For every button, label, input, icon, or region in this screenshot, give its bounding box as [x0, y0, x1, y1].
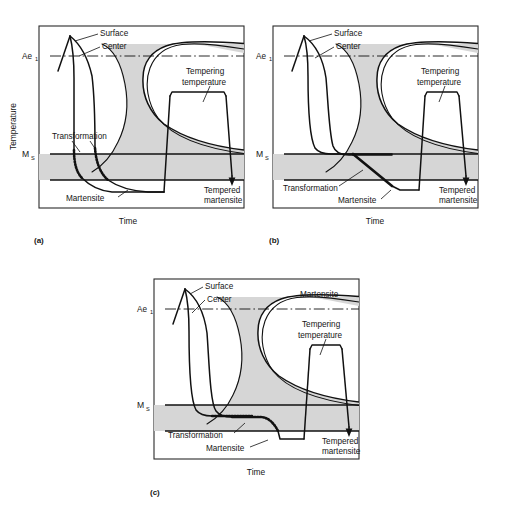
- panel-a-surface-leader: [75, 34, 98, 41]
- panel-a-transformation-band: [92, 44, 244, 180]
- panel-a-ae1-label: Ae: [22, 52, 32, 61]
- panel-a-ae1-sub: 1: [35, 56, 38, 62]
- panel-c-tempering-label-line2: temperature: [298, 331, 343, 340]
- panel-b: Ae 1 M S Surface Center Transformation M…: [253, 0, 505, 252]
- panel-a-transformation-label: Transformation: [52, 132, 107, 141]
- figure-root: Temperature: [0, 0, 505, 505]
- panel-a-tempered-label-line2: martensite: [204, 196, 243, 205]
- panel-a-tempered-label-line1: Tempered: [204, 186, 241, 195]
- panel-b-surface-curve: [304, 36, 353, 154]
- panel-c-center-leader: [192, 300, 205, 313]
- panel-b-ms-label-group: M S: [256, 149, 269, 161]
- panel-c-ms-label: M: [137, 400, 144, 410]
- panel-a-y-axis-label: Temperature: [8, 103, 18, 150]
- panel-c-martensite-top-label: Martensite: [300, 290, 339, 299]
- panel-c: Ae 1 M S Surface Center Martensite Trans…: [128, 255, 380, 505]
- panel-c-ms-label-group: M S: [137, 400, 150, 412]
- panel-a-ms-sub: S: [31, 155, 35, 161]
- panel-c-caption: (c): [150, 488, 160, 497]
- panel-c-martensite-label: Martensite: [206, 444, 245, 453]
- panel-a-caption: (a): [34, 236, 44, 245]
- panel-b-transformation-label: Transformation: [283, 184, 338, 193]
- panel-b-transformation-band: [326, 44, 478, 180]
- panel-a-x-axis-label: Time: [119, 216, 138, 226]
- panel-c-surface-leader: [190, 287, 203, 294]
- panel-c-quench-tail: [278, 431, 304, 439]
- panel-c-ms-sub: S: [146, 406, 150, 412]
- panel-a: Temperature: [0, 0, 252, 252]
- panel-b-ms-sub: S: [265, 155, 269, 161]
- panel-a-ae1-label-group: Ae 1: [22, 52, 38, 62]
- panel-b-tempering-leader: [439, 86, 445, 102]
- panel-a-martensite-leader: [118, 190, 128, 197]
- panel-b-tempering-label-line1: Tempering: [421, 67, 460, 76]
- panel-a-ms-label-group: M S: [22, 149, 35, 161]
- panel-c-tempering-arrowhead: [346, 429, 353, 438]
- panel-b-martensite-leader: [381, 190, 391, 199]
- panel-a-martensite-label: Martensite: [66, 194, 105, 203]
- panel-a-tempering-label-line1: Tempering: [186, 67, 225, 76]
- panel-b-tempering-arrowhead: [463, 178, 470, 187]
- panel-b-ms-label: M: [256, 149, 263, 159]
- panel-a-tempering-arrowhead: [229, 178, 236, 187]
- panel-c-tempering-leader: [320, 339, 326, 355]
- panel-b-ae1-label-group: Ae 1: [256, 52, 272, 62]
- panel-c-ae1-label: Ae: [137, 305, 147, 314]
- panel-b-surface-label: Surface: [334, 29, 363, 38]
- panel-c-austenitize-ramp: [173, 289, 185, 324]
- panel-b-martensite-label: Martensite: [338, 196, 377, 205]
- panel-c-surface-label: Surface: [205, 282, 234, 291]
- panel-a-austenitize-ramp: [58, 36, 70, 71]
- panel-c-martensite-leader: [250, 440, 268, 447]
- panel-a-tempering-label-line2: temperature: [182, 78, 227, 87]
- panel-b-ae1-sub: 1: [269, 56, 272, 62]
- panel-c-ae1-label-group: Ae 1: [137, 305, 153, 315]
- panel-c-x-axis-label: Time: [247, 467, 266, 477]
- panel-b-tempering-label-line2: temperature: [417, 78, 462, 87]
- panel-b-surface-quench-tail: [392, 186, 419, 190]
- panel-c-transformation-band: [207, 297, 359, 431]
- panel-a-transformation-leader: [72, 141, 96, 152]
- panel-a-ms-label: M: [22, 149, 29, 159]
- panel-b-tempered-label-line1: Tempered: [439, 186, 476, 195]
- panel-b-x-axis-label: Time: [366, 216, 385, 226]
- panel-a-center-quench-tail: [108, 180, 164, 192]
- panel-a-tempering-leader: [203, 86, 210, 102]
- panel-c-tempered-label-line1: Tempered: [322, 437, 359, 446]
- panel-c-ae1-sub: 1: [150, 309, 153, 315]
- panel-b-surface-leader: [309, 34, 332, 41]
- panel-c-tempering-hold: [310, 345, 342, 349]
- panel-c-tempered-label-line2: martensite: [322, 447, 361, 456]
- panel-b-caption: (b): [269, 236, 280, 245]
- panel-c-tempering-label-line1: Tempering: [302, 320, 341, 329]
- panel-b-ae1-label: Ae: [256, 52, 266, 61]
- panel-a-tempering-hold: [170, 92, 226, 96]
- panel-c-transformation-label: Transformation: [168, 431, 223, 440]
- panel-a-center-label: Center: [102, 42, 127, 51]
- panel-a-surface-label: Surface: [100, 29, 129, 38]
- panel-b-austenitize-ramp: [292, 36, 304, 71]
- panel-b-center-label: Center: [336, 42, 361, 51]
- panel-b-tempered-label-line2: martensite: [439, 196, 478, 205]
- panel-c-center-label: Center: [207, 295, 232, 304]
